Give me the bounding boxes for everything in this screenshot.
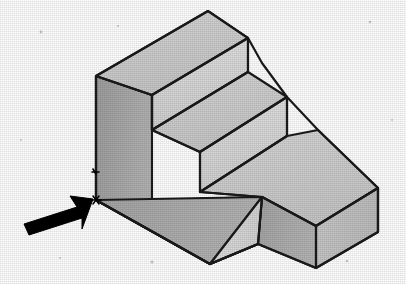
- face-left-side: [96, 76, 152, 200]
- scan-speckle-4: [59, 257, 61, 259]
- scan-speckle-3: [151, 261, 154, 264]
- scan-speckle-6: [20, 139, 22, 141]
- scan-speckle-2: [369, 21, 372, 24]
- figure-canvas: Isometric pictorial of a stepped block w…: [0, 0, 406, 284]
- isometric-stepped-block-drawing: [0, 0, 406, 284]
- scan-speckle-7: [391, 119, 393, 121]
- scan-speckle-1: [117, 25, 119, 27]
- scan-speckle-0: [40, 31, 43, 34]
- scan-speckle-5: [346, 260, 348, 262]
